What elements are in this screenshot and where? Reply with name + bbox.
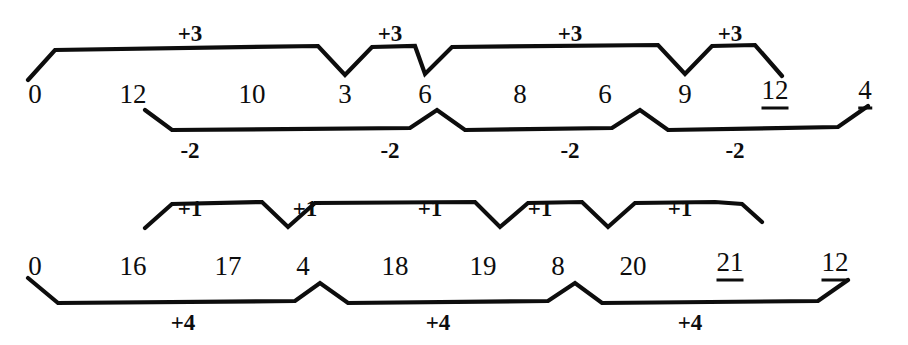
top-upper-operation-label: +3 — [178, 22, 203, 45]
top-lower-operation-label: -2 — [560, 139, 579, 162]
top-answer-value: 12 — [762, 77, 789, 110]
top-lower-operation-label: -2 — [725, 139, 744, 162]
bottom-node-value: 18 — [382, 253, 409, 280]
bottom-node-value: 17 — [215, 253, 242, 280]
bottom-answer-value: 21 — [717, 249, 744, 282]
top-node-value: 6 — [418, 81, 432, 108]
top-upper-operation-label: +3 — [558, 22, 583, 45]
bottom-lower-operation-label: +4 — [171, 311, 196, 334]
bottom-node-value: 0 — [28, 253, 42, 280]
figure-canvas: +3 +3 +3 +3 0 12 10 3 6 8 6 9 12 4 -2 -2… — [0, 0, 908, 345]
bottom-row-lower-hops-path — [28, 278, 848, 303]
bottom-node-value: 19 — [470, 253, 497, 280]
top-upper-operation-label: +3 — [378, 22, 403, 45]
top-lower-operation-label: -2 — [380, 139, 399, 162]
top-row-upper-hops-path — [28, 45, 782, 80]
top-node-value: 10 — [239, 81, 266, 108]
top-answer-value: 4 — [858, 77, 872, 110]
top-node-value: 8 — [513, 81, 527, 108]
bottom-upper-operation-label: +1 — [668, 197, 693, 220]
bottom-answer-value: 12 — [822, 249, 849, 282]
top-node-value: 12 — [120, 81, 147, 108]
top-node-value: 9 — [678, 81, 692, 108]
bottom-upper-operation-label: +1 — [178, 197, 203, 220]
top-node-value: 0 — [28, 81, 42, 108]
bottom-lower-operation-label: +4 — [678, 311, 703, 334]
top-node-value: 6 — [598, 81, 612, 108]
top-node-value: 3 — [338, 81, 352, 108]
bottom-node-value: 20 — [620, 253, 647, 280]
bottom-upper-operation-label: +1 — [528, 197, 553, 220]
bottom-upper-operation-label: +1 — [293, 197, 318, 220]
hop-lines-layer — [0, 0, 908, 345]
bottom-lower-operation-label: +4 — [426, 311, 451, 334]
bottom-node-value: 16 — [120, 253, 147, 280]
bottom-node-value: 4 — [296, 253, 310, 280]
bottom-upper-operation-label: +1 — [418, 197, 443, 220]
bottom-node-value: 8 — [551, 253, 565, 280]
top-lower-operation-label: -2 — [180, 139, 199, 162]
top-row-lower-hops-path — [145, 106, 868, 130]
top-upper-operation-label: +3 — [718, 22, 743, 45]
